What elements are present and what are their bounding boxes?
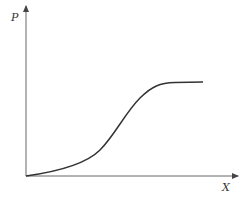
chart-canvas: P X bbox=[0, 0, 250, 197]
sigmoid-curve bbox=[26, 82, 203, 176]
y-axis-label: P bbox=[10, 11, 19, 24]
x-axis-label: X bbox=[221, 181, 231, 194]
